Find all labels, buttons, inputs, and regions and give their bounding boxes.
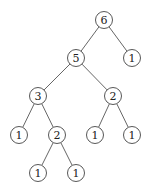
node-label: 1 [35, 167, 42, 180]
tree-node: 5 [68, 50, 85, 67]
node-label: 1 [129, 52, 136, 65]
tree-edge [99, 104, 110, 128]
tree-edge [109, 27, 127, 51]
tree-node: 1 [124, 50, 141, 67]
tree-node: 1 [124, 127, 141, 144]
tree-edge [81, 27, 99, 51]
tree-node: 6 [96, 12, 113, 29]
tree-node: 3 [30, 88, 47, 105]
tree-edge [117, 104, 129, 128]
tree-node: 1 [87, 127, 104, 144]
node-label: 1 [129, 129, 136, 142]
tree-edge [82, 64, 107, 90]
tree-node: 1 [11, 127, 28, 144]
node-label: 1 [92, 129, 99, 142]
tree-edge [42, 104, 54, 128]
tree-edge [42, 143, 53, 166]
tree-edge [23, 104, 35, 128]
tree-node: 2 [49, 127, 66, 144]
tree-node: 1 [68, 165, 85, 182]
node-label: 6 [101, 14, 108, 27]
tree-diagram: 65132121111 [0, 0, 151, 192]
node-label: 3 [35, 90, 42, 103]
node-label: 1 [16, 129, 23, 142]
tree-node: 1 [30, 165, 47, 182]
node-label: 2 [110, 90, 117, 103]
tree-canvas: 65132121111 [0, 0, 151, 192]
node-label: 1 [73, 167, 80, 180]
node-label: 5 [73, 52, 80, 65]
tree-node: 2 [105, 88, 122, 105]
tree-edge [61, 143, 72, 166]
nodes-layer: 65132121111 [11, 12, 141, 182]
tree-edge [44, 64, 70, 90]
node-label: 2 [54, 129, 61, 142]
